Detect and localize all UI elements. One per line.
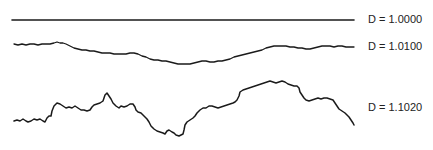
label-d-1-0100: D = 1.0100 [368,40,422,52]
label-d-1-1020: D = 1.1020 [368,101,422,113]
fractal-dimension-figure: D = 1.0000 D = 1.0100 D = 1.1020 [0,0,433,150]
curve-d-1-1020 [14,81,354,136]
curve-d-1-0100 [14,42,354,64]
label-d-1-0000: D = 1.0000 [368,13,422,25]
